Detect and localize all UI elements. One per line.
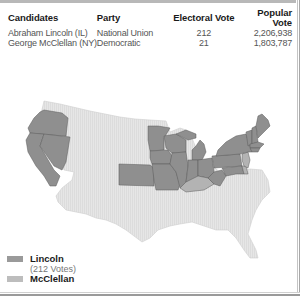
candidate-name: Abraham Lincoln (IL)	[8, 28, 97, 38]
state-new-jersey	[242, 152, 250, 168]
electoral-vote: 212	[171, 28, 237, 38]
state-oregon	[28, 110, 68, 136]
legend-swatch-mcclellan	[7, 276, 23, 282]
legend-item-lincoln: Lincoln	[7, 254, 76, 264]
table-row: Abraham Lincoln (IL) National Union 212 …	[8, 28, 292, 38]
map-panel: Candidates Party Electoral Vote Popular …	[0, 0, 300, 296]
header-candidates: Candidates	[8, 8, 97, 28]
map-legend: Lincoln (212 Votes) McClellan	[7, 254, 76, 284]
state-maine	[256, 114, 270, 138]
candidate-party: National Union	[97, 28, 171, 38]
header-electoral-vote: Electoral Vote	[171, 8, 237, 28]
legend-label-lincoln: Lincoln	[30, 254, 64, 264]
us-election-map	[0, 40, 296, 260]
header-popular-vote: Popular Vote	[237, 8, 292, 28]
popular-vote: 2,206,938	[237, 28, 292, 38]
table-header-row: Candidates Party Electoral Vote Popular …	[8, 8, 292, 28]
state-connecticut-rhode-island	[250, 148, 260, 152]
state-iowa	[150, 150, 172, 164]
state-kansas	[119, 164, 154, 186]
frame-right-border	[296, 0, 300, 296]
header-party: Party	[97, 8, 171, 28]
frame-top-border	[0, 0, 300, 3]
legend-swatch-lincoln	[7, 256, 23, 262]
frame-bottom-border	[0, 292, 300, 296]
legend-label-mcclellan: McClellan	[30, 274, 74, 284]
legend-item-mcclellan: McClellan	[7, 274, 76, 284]
